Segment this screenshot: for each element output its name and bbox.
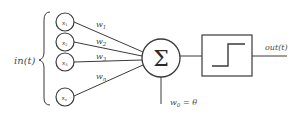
input-node: x3 <box>56 53 74 71</box>
sigma-icon: Σ <box>153 46 169 71</box>
connection-line <box>74 60 142 62</box>
bias-label: w0 = θ <box>170 98 197 108</box>
summation-node: Σ <box>142 39 180 77</box>
input-node: xn <box>56 88 74 106</box>
step-function-icon <box>212 44 245 66</box>
input-label: in(t) <box>14 55 36 66</box>
input-nodes: x1 x2 x3 xn <box>56 13 74 106</box>
input-brace <box>39 12 50 105</box>
weight-connections <box>74 22 143 96</box>
input-node-label: x1 <box>62 20 68 27</box>
input-node: x2 <box>56 33 74 51</box>
input-node-label: x2 <box>62 40 68 47</box>
input-node-label: xn <box>62 95 67 102</box>
step-activation-box <box>202 35 252 76</box>
input-node-label: x3 <box>62 60 68 67</box>
weight-labels: w1 w2 w3 wn <box>96 20 107 82</box>
perceptron-diagram: in(t) x1 x2 x3 xn w1 w2 w3 wn <box>0 0 304 115</box>
input-node: x1 <box>56 13 74 31</box>
weight-label: wn <box>96 72 107 82</box>
weight-label: w2 <box>96 37 107 47</box>
weight-label: w1 <box>96 20 106 30</box>
weight-label: w3 <box>96 52 107 62</box>
connection-line <box>74 65 143 96</box>
connection-line <box>74 42 142 56</box>
output-label: out(t) <box>265 43 288 52</box>
connection-line <box>74 22 143 52</box>
